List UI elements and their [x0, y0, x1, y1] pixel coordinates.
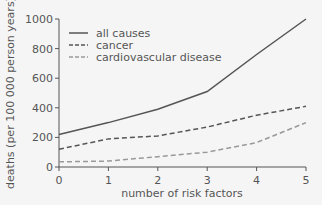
x-tick-label: 3	[204, 174, 211, 187]
x-tick-label: 2	[154, 174, 161, 187]
legend: all causescancercardiovascular disease	[69, 27, 222, 64]
line-chart: 01234502004006008001000 all causescancer…	[0, 0, 322, 205]
series-line-cardiovascular-disease	[59, 123, 306, 162]
x-tick-label: 5	[303, 174, 310, 187]
x-tick-label: 1	[105, 174, 112, 187]
legend-label: cardiovascular disease	[96, 51, 222, 64]
axes: 01234502004006008001000	[25, 13, 310, 187]
y-tick-label: 600	[32, 72, 53, 85]
series-line-cancer	[59, 106, 306, 149]
y-tick-label: 200	[32, 131, 53, 144]
y-tick-label: 800	[32, 43, 53, 56]
x-tick-label: 0	[56, 174, 63, 187]
y-tick-label: 400	[32, 102, 53, 115]
y-axis-label: deaths (per 100 000 person years)	[4, 0, 17, 189]
y-tick-label: 1000	[25, 13, 53, 26]
x-axis-label: number of risk factors	[121, 187, 243, 200]
y-tick-label: 0	[46, 161, 53, 174]
x-tick-label: 4	[253, 174, 260, 187]
